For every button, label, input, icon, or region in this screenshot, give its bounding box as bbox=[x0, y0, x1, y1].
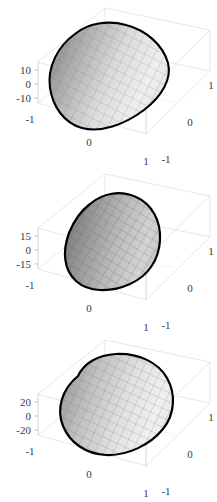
z-tick-bottom-2: -15 bbox=[16, 258, 31, 270]
surface-plot-panel-2: 15 0 -15 -1 0 1 -1 0 1 bbox=[0, 166, 217, 333]
y-tick-far-2: 1 bbox=[208, 245, 214, 257]
z-axis-ticks-3: 20 0 -20 bbox=[16, 396, 38, 436]
plot-canvas-3: 20 0 -20 -1 0 1 -1 0 1 bbox=[0, 332, 217, 499]
y-axis-ticks-3: -1 0 1 bbox=[161, 411, 213, 497]
plot-canvas-1: 10 0 -10 -1 0 1 -1 0 1 bbox=[0, 0, 217, 167]
z-axis-ticks-1: 10 0 -10 bbox=[16, 64, 38, 104]
z-tick-mid-2: 0 bbox=[26, 244, 32, 256]
z-axis-ticks-2: 15 0 -15 bbox=[16, 230, 38, 270]
y-axis-ticks-1: -1 0 1 bbox=[161, 79, 213, 165]
surface-plot-panel-3: 20 0 -20 -1 0 1 -1 0 1 bbox=[0, 332, 217, 499]
x-tick-right-3: 1 bbox=[143, 487, 149, 499]
surface-plot-panel-1: 10 0 -10 -1 0 1 -1 0 1 bbox=[0, 0, 217, 167]
x-axis-ticks-3: -1 0 1 bbox=[25, 445, 148, 499]
x-tick-mid-3: 0 bbox=[86, 468, 92, 480]
y-tick-near-1: -1 bbox=[161, 153, 170, 165]
plot-canvas-2: 15 0 -15 -1 0 1 -1 0 1 bbox=[0, 166, 217, 333]
y-tick-far-1: 1 bbox=[208, 79, 214, 91]
y-tick-far-3: 1 bbox=[208, 411, 214, 423]
y-tick-mid-2: 0 bbox=[187, 282, 193, 294]
surface-mesh-1 bbox=[40, 12, 180, 142]
z-tick-bottom-1: -10 bbox=[16, 92, 31, 104]
z-tick-bottom-3: -20 bbox=[16, 424, 31, 436]
y-tick-mid-3: 0 bbox=[187, 448, 193, 460]
z-tick-top-1: 10 bbox=[20, 64, 32, 76]
y-tick-near-2: -1 bbox=[161, 319, 170, 331]
z-tick-mid-1: 0 bbox=[26, 78, 32, 90]
z-tick-top-2: 15 bbox=[20, 230, 32, 242]
surface-mesh-3 bbox=[50, 346, 185, 464]
y-axis-ticks-2: -1 0 1 bbox=[161, 245, 213, 331]
z-tick-top-3: 20 bbox=[20, 396, 32, 408]
x-tick-left-3: -1 bbox=[25, 445, 34, 457]
y-tick-mid-1: 0 bbox=[187, 116, 193, 128]
x-tick-left-2: -1 bbox=[25, 279, 34, 291]
surface-mesh-2 bbox=[55, 184, 175, 302]
y-tick-near-3: -1 bbox=[161, 485, 170, 497]
x-tick-left-1: -1 bbox=[25, 113, 34, 125]
z-tick-mid-3: 0 bbox=[26, 410, 32, 422]
x-tick-mid-2: 0 bbox=[86, 302, 92, 314]
x-tick-mid-1: 0 bbox=[86, 136, 92, 148]
